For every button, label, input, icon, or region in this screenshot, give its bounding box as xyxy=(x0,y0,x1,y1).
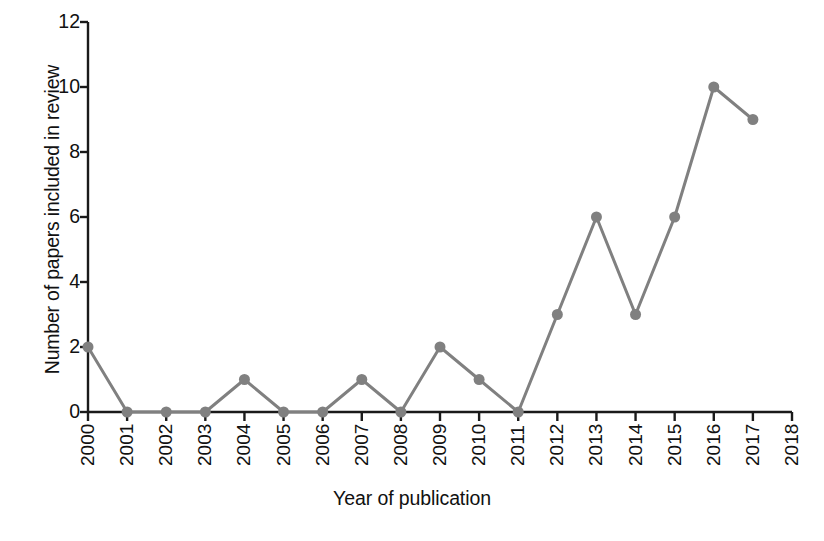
figure-caption-partial xyxy=(0,533,824,541)
x-axis-tick-label: 2018 xyxy=(782,396,801,466)
x-axis-tick-label-group: 2000200120022003200420052006200720082009… xyxy=(0,0,824,541)
figure-line-chart: Number of papers included in review 0246… xyxy=(0,0,824,541)
x-axis-tick-label: 2002 xyxy=(156,396,175,466)
x-axis-tick-label: 2013 xyxy=(586,396,605,466)
x-axis-tick-label: 2005 xyxy=(274,396,293,466)
x-axis-tick-label: 2004 xyxy=(234,396,253,466)
x-axis-tick-label: 2010 xyxy=(469,396,488,466)
x-axis-tick-label: 2008 xyxy=(391,396,410,466)
x-axis-tick-label: 2011 xyxy=(508,396,527,466)
x-axis-title: Year of publication xyxy=(0,487,824,510)
x-axis-tick-label: 2012 xyxy=(547,396,566,466)
x-axis-tick-label: 2007 xyxy=(352,396,371,466)
x-axis-tick-label: 2003 xyxy=(195,396,214,466)
x-axis-tick-label: 2017 xyxy=(743,396,762,466)
x-axis-tick-label: 2014 xyxy=(626,396,645,466)
x-axis-tick-label: 2009 xyxy=(430,396,449,466)
x-axis-tick-label: 2015 xyxy=(665,396,684,466)
x-axis-tick-label: 2001 xyxy=(117,396,136,466)
x-axis-tick-label: 2000 xyxy=(78,396,97,466)
x-axis-tick-label: 2016 xyxy=(704,396,723,466)
x-axis-tick-label: 2006 xyxy=(313,396,332,466)
